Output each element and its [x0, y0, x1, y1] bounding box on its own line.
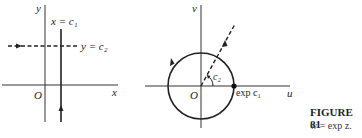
- figure-subtitle: w = exp z.: [310, 120, 352, 131]
- point-label: exp c₁: [236, 87, 261, 98]
- v-axis-label: v: [192, 2, 197, 14]
- arrow-up-icon: [59, 105, 64, 111]
- x-axis-label: x: [112, 86, 117, 98]
- y-axis-label: y: [36, 2, 41, 14]
- origin-label-left: O: [34, 89, 42, 101]
- origin-label-right: O: [190, 89, 198, 101]
- u-axis-label: u: [287, 87, 293, 99]
- arrow-ray-icon: [222, 40, 228, 47]
- angle-label: c₂: [213, 71, 221, 82]
- arrow-ccw-icon: [170, 58, 175, 66]
- horizontal-line-label: y = c₂: [81, 40, 108, 52]
- arrow-right-icon: [16, 44, 22, 49]
- vertical-line-label: x = c₁: [51, 15, 78, 27]
